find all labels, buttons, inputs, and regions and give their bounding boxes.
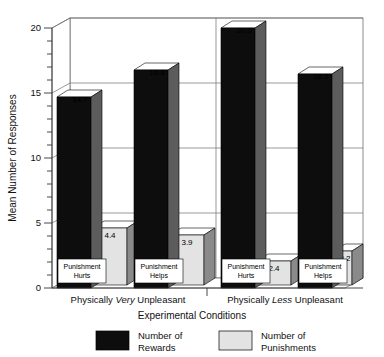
bar-value-p2: 3.9 bbox=[181, 238, 193, 247]
bar-caption-3-line2: Hurts bbox=[238, 272, 255, 279]
y-tick-label-10: 10 bbox=[30, 152, 41, 163]
legend-label-punishments-line1: Number of bbox=[261, 330, 306, 341]
y-tick-label-15: 15 bbox=[30, 87, 41, 98]
x-axis-title: Experimental Conditions bbox=[138, 310, 246, 321]
bar-value-b3: 20.0 bbox=[236, 26, 252, 35]
bar-rewards-4: 16.5 bbox=[298, 67, 343, 288]
bar-value-b2: 16.8 bbox=[149, 68, 165, 77]
bar-caption-4-line1: Punishment bbox=[305, 263, 342, 270]
y-tick-label-0: 0 bbox=[36, 282, 41, 293]
bar-caption-3: Punishment Hurts bbox=[222, 259, 270, 283]
chart-legend: Number of Rewards Number of Punishments bbox=[96, 330, 316, 353]
bar-caption-1-line1: Punishment bbox=[64, 263, 101, 270]
bar-caption-2-line2: Helps bbox=[150, 272, 168, 280]
bar-chart-3d: 0 5 10 15 20 Mean Number of Responses 4.… bbox=[0, 0, 384, 357]
cat-right-emphasis: Less bbox=[272, 294, 292, 305]
bar-value-b4: 16.5 bbox=[313, 72, 329, 81]
legend-label-rewards-line2: Rewards bbox=[138, 342, 176, 353]
chart-container: 0 5 10 15 20 Mean Number of Responses 4.… bbox=[0, 0, 384, 357]
cat-right-pre: Physically bbox=[227, 294, 272, 305]
x-category-label-right: Physically Less Unpleasant bbox=[227, 294, 343, 305]
bar-caption-1-line2: Hurts bbox=[74, 272, 91, 279]
y-axis-title: Mean Number of Responses bbox=[7, 94, 18, 221]
bar-caption-2: Punishment Helps bbox=[135, 259, 183, 283]
y-axis: 0 5 10 15 20 bbox=[30, 22, 52, 293]
bar-value-p1: 4.4 bbox=[104, 231, 116, 240]
cat-right-post: Unpleasant bbox=[292, 294, 343, 305]
bar-caption-1: Punishment Hurts bbox=[58, 259, 106, 283]
bar-rewards-1: 14.7 bbox=[57, 90, 102, 288]
bar-value-b1: 14.7 bbox=[72, 95, 88, 104]
y-tick-label-5: 5 bbox=[36, 217, 41, 228]
bar-caption-2-line1: Punishment bbox=[141, 263, 178, 270]
cat-left-post: Unpleasant bbox=[135, 294, 186, 305]
cat-left-pre: Physically bbox=[71, 294, 116, 305]
legend-swatch-rewards bbox=[96, 331, 129, 350]
bar-caption-3-line1: Punishment bbox=[228, 263, 265, 270]
bar-caption-4: Punishment Helps bbox=[299, 259, 347, 283]
legend-swatch-punishments bbox=[219, 331, 252, 350]
legend-label-punishments-line2: Punishments bbox=[261, 342, 316, 353]
bar-rewards-3: 20.0 bbox=[221, 21, 266, 288]
bar-caption-4-line2: Helps bbox=[314, 272, 332, 280]
legend-label-rewards-line1: Number of bbox=[138, 330, 183, 341]
x-category-label-left: Physically Very Unpleasant bbox=[71, 294, 186, 305]
y-tick-label-20: 20 bbox=[30, 22, 41, 33]
bar-rewards-2: 16.8 bbox=[134, 63, 179, 288]
cat-left-emphasis: Very bbox=[115, 294, 135, 305]
